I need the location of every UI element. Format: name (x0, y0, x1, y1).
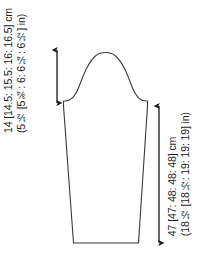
cap-depth-label: 14 [14.5: 15.5: 16: 16.5] cm (5½ [5¾: 6:… (2, 8, 29, 133)
cap-depth-metric: 14 [14.5: 15.5: 16: 16.5] cm (2, 8, 15, 133)
sleeve-length-label: 47 [47: 48: 48: 48] cm (18½ [18½: 19: 19… (166, 112, 193, 236)
sleeve-schematic-diagram: 14 [14.5: 15.5: 16: 16.5] cm (5½ [5¾: 6:… (0, 0, 209, 260)
sleeve-length-metric: 47 [47: 48: 48: 48] cm (166, 112, 179, 236)
cap-depth-imperial: (5½ [5¾: 6: 6¼: 6½] in) (15, 8, 28, 133)
sleeve-length-imperial: (18½ [18½: 19: 19: 19] in) (179, 112, 192, 236)
sleeve-outline-path (64, 53, 148, 244)
